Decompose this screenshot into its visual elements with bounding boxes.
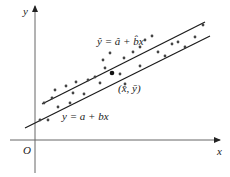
origin-label: O [23,145,31,156]
data-point [109,52,112,55]
true-line-equation: y = a + bx [62,111,109,122]
data-point [102,59,105,62]
data-point [72,92,75,95]
data-point [119,73,122,76]
data-point [87,79,90,82]
data-point [177,41,180,44]
y-axis-label: y [23,6,28,17]
data-point [99,82,102,85]
data-point [94,76,97,79]
data-point [132,51,135,54]
data-point [184,46,187,49]
centroid-point [110,71,115,76]
data-point [39,119,42,122]
data-point [202,24,205,27]
data-point [194,36,197,39]
data-point [171,43,174,46]
data-point [69,102,72,105]
data-point [51,97,54,100]
regression-diagram [0,0,230,177]
data-point [75,81,78,84]
centroid-label: (x̄, ȳ) [118,83,141,94]
data-point [47,119,50,122]
data-point [83,93,86,96]
data-point [151,35,154,38]
x-axis-label: x [217,146,222,157]
data-point [157,51,160,54]
fitted-line-equation: ŷ = â + b̂x [97,36,144,47]
data-point [57,106,60,109]
data-point [104,67,107,70]
data-point [139,65,142,68]
data-point [54,89,57,92]
data-point [164,55,167,58]
data-point [144,39,147,42]
data-point [65,85,68,88]
data-point [123,57,126,60]
data-point [43,102,46,105]
